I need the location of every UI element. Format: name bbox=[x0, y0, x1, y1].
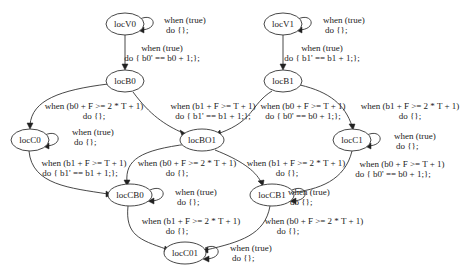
edge-label-line: do {}; bbox=[166, 168, 188, 178]
edge-label-locC01-self: when (true) do {}; bbox=[230, 243, 272, 263]
edge-label-line: do {}; bbox=[166, 226, 188, 236]
edge-label-line: when (true) bbox=[72, 127, 114, 137]
edge-label-line: do {}; bbox=[325, 25, 347, 35]
edge-label-line: when (b0 + F >= T + 1) bbox=[260, 101, 345, 111]
node-label: locC01 bbox=[172, 248, 198, 258]
edge-label-line: do { b1' == b1 + 1;}; bbox=[42, 168, 118, 178]
edge-label-line: when (true) bbox=[175, 187, 217, 197]
edge-label-locCB0-self: when (true) do {}; bbox=[175, 187, 217, 207]
node-locCB0[interactable]: locCB0 bbox=[108, 184, 152, 206]
edge-label-line: when (true) bbox=[288, 187, 330, 197]
edge-label-line: do {}; bbox=[399, 111, 421, 121]
edge-locBO1-locCB1 bbox=[215, 150, 264, 186]
edge-label-line: when (true) bbox=[301, 43, 343, 53]
edge-label-locCB1-locC01: when (b0 + F >= 2 * T + 1) do {}; bbox=[265, 216, 364, 236]
edge-label-locV0-self: when (true) do {}; bbox=[164, 15, 206, 35]
edge-label-line: do {}; bbox=[166, 25, 188, 35]
node-locC0[interactable]: locC0 bbox=[11, 129, 49, 151]
edge-label-line: when (b0 + F >= 2 * T + 1) bbox=[265, 216, 364, 226]
edge-label-line: do {}; bbox=[277, 226, 299, 236]
node-locC01[interactable]: locC01 bbox=[164, 242, 206, 264]
edge-label-line: do {}; bbox=[83, 111, 105, 121]
edge-label-locBO1-locCB1: when (b1 + F >= 2 * T + 1) do {}; bbox=[247, 158, 346, 178]
edge-label-line: do { b0' == b0 + 1;}; bbox=[355, 169, 431, 179]
node-label: locC0 bbox=[19, 135, 41, 145]
node-label: locB1 bbox=[272, 76, 294, 86]
edge-label-locB0-locBO1: when (b1 + F >= T + 1) do { b1' == b1 + … bbox=[170, 101, 255, 121]
edge-label-line: when (b1 + F >= 2 * T + 1) bbox=[142, 216, 241, 226]
edge-label-locB1-locBO1: when (b0 + F >= T + 1) do { b0' == b0 + … bbox=[260, 101, 345, 121]
edge-label-locV1-locB1: when (true) do { b1' == b1 + 1;}; bbox=[284, 43, 360, 63]
edge-label-locCB1-self: when (true) do {}; bbox=[288, 187, 330, 207]
node-label: locC1 bbox=[341, 135, 363, 145]
edge-label-line: when (b1 + F >= T + 1) bbox=[41, 158, 126, 168]
node-label: locCB0 bbox=[116, 190, 144, 200]
edge-label-locC1-self: when (true) do {}; bbox=[394, 131, 436, 151]
edge-label-line: when (true) bbox=[394, 131, 436, 141]
node-locV0[interactable]: locV0 bbox=[106, 13, 144, 35]
edge-label-locC0-self: when (true) do {}; bbox=[72, 127, 114, 147]
arrow-head-icon bbox=[27, 123, 33, 129]
node-label: locCB1 bbox=[258, 190, 286, 200]
edge-label-line: when (b0 + F >= T + 1) bbox=[359, 159, 444, 169]
edge-locCB0-locC01 bbox=[128, 206, 170, 252]
edge-label-line: do { b0' == b0 + 1;}; bbox=[265, 111, 341, 121]
edge-label-line: do {}; bbox=[232, 253, 254, 263]
edge-label-line: when (b1 + F >= 2 * T + 1) bbox=[247, 158, 346, 168]
edge-label-line: do {}; bbox=[276, 168, 298, 178]
edge-label-locCB0-locC01: when (b1 + F >= 2 * T + 1) do {}; bbox=[142, 216, 241, 236]
node-locC1[interactable]: locC1 bbox=[333, 129, 371, 151]
edge-label-line: when (true) bbox=[164, 15, 206, 25]
edge-label-line: do {}; bbox=[177, 197, 199, 207]
edge-label-locC0-locCB0: when (b1 + F >= T + 1) do { b1' == b1 + … bbox=[41, 158, 126, 178]
edge-label-line: do { b1' == b1 + 1;}; bbox=[284, 53, 360, 63]
node-label: locB0 bbox=[114, 76, 136, 86]
node-locBO1[interactable]: locBO1 bbox=[180, 129, 224, 151]
edge-label-line: when (b0 + F >= 2 * T + 1) bbox=[138, 158, 237, 168]
node-label: locV0 bbox=[114, 19, 136, 29]
node-locB0[interactable]: locB0 bbox=[106, 70, 144, 92]
edge-label-line: when (b0 + F >= 2 * T + 1) bbox=[45, 101, 144, 111]
edge-label-line: do {}; bbox=[396, 141, 418, 151]
edge-label-locV1-self: when (true) do {}; bbox=[323, 15, 365, 35]
edge-label-locV0-locB0: when (true) do { b0' == b0 + 1;}; bbox=[124, 43, 200, 63]
node-locB1[interactable]: locB1 bbox=[264, 70, 302, 92]
node-label: locBO1 bbox=[188, 135, 216, 145]
state-diagram: locV0 locV1 locB0 locB1 locC0 locBO1 loc… bbox=[0, 0, 461, 278]
edge-label-locBO1-locCB0: when (b0 + F >= 2 * T + 1) do {}; bbox=[138, 158, 237, 178]
edge-label-line: do {}; bbox=[74, 137, 96, 147]
arrow-head-icon bbox=[122, 64, 128, 70]
edge-label-locC1-locCB1: when (b0 + F >= T + 1) do { b0' == b0 + … bbox=[355, 159, 444, 179]
arrow-head-icon bbox=[280, 64, 286, 70]
edge-label-line: when (b1 + F >= 2 * T + 1) bbox=[361, 101, 460, 111]
edge-label-line: do { b1' == b1 + 1;}; bbox=[175, 111, 251, 121]
node-locV1[interactable]: locV1 bbox=[264, 13, 302, 35]
edge-label-line: do {}; bbox=[290, 197, 312, 207]
edge-label-locB1-locC1: when (b1 + F >= 2 * T + 1) do {}; bbox=[361, 101, 460, 121]
edge-label-line: when (true) bbox=[230, 243, 272, 253]
node-label: locV1 bbox=[272, 19, 294, 29]
edge-label-line: when (true) bbox=[141, 43, 183, 53]
edge-label-line: do { b0' == b0 + 1;}; bbox=[124, 53, 200, 63]
edge-label-line: when (b1 + F >= T + 1) bbox=[170, 101, 255, 111]
edge-label-locB0-locC0: when (b0 + F >= 2 * T + 1) do {}; bbox=[45, 101, 144, 121]
edge-label-line: when (true) bbox=[323, 15, 365, 25]
